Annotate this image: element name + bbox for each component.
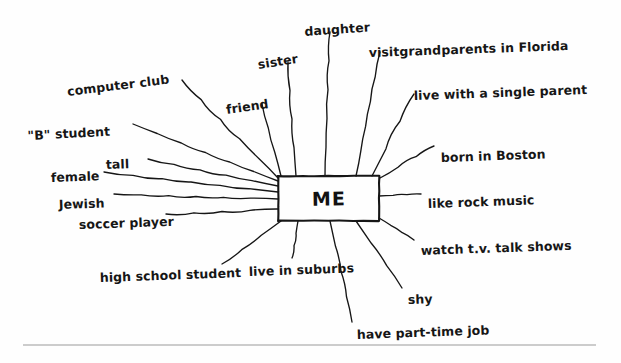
leader-line-female <box>104 172 278 192</box>
sketch-diagram-canvas: computer clubsisterdaughtervisitgrandpar… <box>0 0 621 363</box>
center-box-edge-bottom <box>278 221 378 222</box>
leader-line-live-single-parent <box>372 94 414 176</box>
node-label-female: female <box>51 170 100 184</box>
leader-line-high-school-student <box>222 221 281 264</box>
leader-line-soccer-player <box>166 209 278 215</box>
leader-line-daughter <box>325 32 330 176</box>
node-label-soccer-player: soccer player <box>79 216 175 232</box>
leader-line-watch-tv-talkshows <box>379 218 414 240</box>
node-label-tall: tall <box>106 158 130 171</box>
leader-line-visit-grandparents <box>356 52 380 176</box>
center-node-label: ME <box>311 189 346 209</box>
leader-line-tall <box>148 159 278 186</box>
leader-line-friend <box>262 104 281 176</box>
leader-line-jewish <box>114 194 278 199</box>
node-label-shy: shy <box>408 293 433 306</box>
leader-line-shy <box>356 221 402 288</box>
leader-line-live-in-suburbs <box>292 221 298 258</box>
leader-line-computer-club <box>182 80 278 178</box>
node-label-jewish: Jewish <box>59 197 105 211</box>
leader-line-like-rock-music <box>379 194 421 196</box>
leader-line-born-in-boston <box>380 146 434 178</box>
center-box-edge-top <box>278 176 380 177</box>
leader-line-sister <box>288 62 296 176</box>
